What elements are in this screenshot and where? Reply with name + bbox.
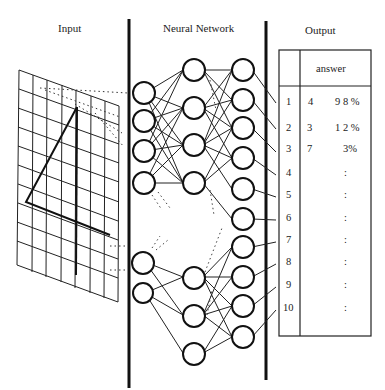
hidden-layer-nodes [183, 59, 205, 365]
input-layer-nodes [132, 82, 155, 303]
row-confidence: 3% [343, 143, 357, 154]
projection-lines [40, 88, 128, 270]
row-confidence: : [344, 234, 347, 245]
row-index: 5 [286, 189, 291, 200]
network-connections [145, 70, 276, 353]
row-index: 9 [286, 279, 291, 290]
row-confidence: : [344, 279, 347, 290]
row-confidence: : [344, 189, 347, 200]
row-confidence: : [344, 167, 347, 178]
output-layer-nodes [232, 59, 254, 348]
row-index: 2 [286, 122, 291, 133]
answer-column-header: answer [316, 63, 346, 74]
row-confidence: 9 8 % [335, 96, 360, 107]
output-table [279, 50, 371, 336]
row-confidence: 1 2 % [335, 122, 360, 133]
neural-network-diagram [0, 0, 385, 390]
row-confidence: : [344, 256, 347, 267]
row-index: 10 [283, 302, 294, 313]
row-index: 3 [286, 143, 291, 154]
row-confidence: : [344, 302, 347, 313]
row-index: 6 [286, 212, 291, 223]
row-index: 7 [286, 234, 291, 245]
row-answer: 7 [307, 143, 312, 154]
row-index: 8 [286, 256, 291, 267]
input-section-label: Input [58, 22, 81, 34]
row-answer: 3 [307, 122, 312, 133]
row-answer: 4 [308, 96, 313, 107]
row-index: 4 [286, 167, 291, 178]
row-index: 1 [286, 96, 291, 107]
output-section-label: Output [305, 24, 336, 36]
input-grid [17, 70, 119, 302]
handwritten-digit [26, 107, 110, 275]
network-section-label: Neural Network [163, 22, 234, 34]
row-confidence: : [344, 212, 347, 223]
